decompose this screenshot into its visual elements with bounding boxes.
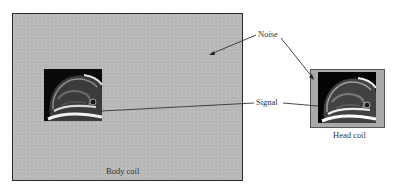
body-coil-caption: Body coil	[106, 166, 139, 176]
sagittal-head-scan-icon	[318, 72, 376, 123]
signal-label: Signal	[256, 97, 278, 107]
sagittal-head-scan-icon	[44, 69, 102, 121]
head-coil-caption: Head coil	[333, 130, 366, 140]
mri-image-head-coil	[318, 72, 376, 123]
mri-image-body-coil	[44, 69, 102, 121]
noise-label: Noise	[258, 29, 278, 39]
noise-arrow-head	[281, 38, 313, 78]
